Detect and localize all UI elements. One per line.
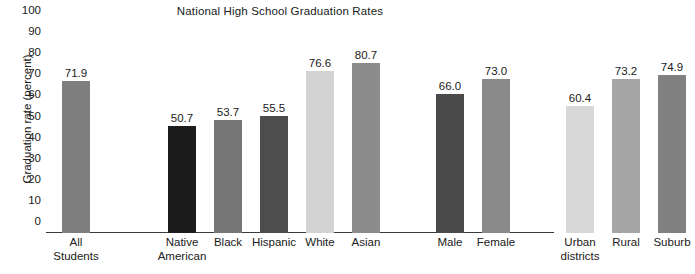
bar[interactable]: [658, 75, 686, 233]
y-axis-line: [46, 22, 48, 233]
bar[interactable]: [482, 79, 510, 233]
x-tick-label: Suburb: [633, 236, 695, 250]
y-tick-label: 100: [11, 4, 41, 16]
x-tick-label: Female: [457, 236, 535, 250]
bar-value-label: 50.7: [171, 112, 193, 124]
bar[interactable]: [62, 81, 90, 233]
y-tick-label: 0: [11, 215, 41, 227]
chart-title: National High School Graduation Rates: [0, 5, 560, 17]
bar-value-label: 80.7: [355, 49, 377, 61]
x-tick-label: AllStudents: [37, 236, 115, 263]
y-tick-label: 80: [11, 46, 41, 58]
bar-value-label: 73.2: [615, 65, 637, 77]
bar[interactable]: [566, 106, 594, 233]
x-axis-line: [46, 232, 554, 234]
y-tick-label: 20: [11, 173, 41, 185]
bar[interactable]: [260, 116, 288, 233]
bar[interactable]: [352, 63, 380, 233]
plot-area: 1009080706050403020100 71.950.753.755.57…: [46, 22, 554, 233]
bar[interactable]: [612, 79, 640, 233]
bar-value-label: 53.7: [217, 106, 239, 118]
x-tick-label: Asian: [327, 236, 405, 250]
y-tick-label: 60: [11, 88, 41, 100]
y-tick-label: 40: [11, 131, 41, 143]
bar-value-label: 76.6: [309, 57, 331, 69]
bar[interactable]: [436, 94, 464, 233]
y-tick-label: 90: [11, 25, 41, 37]
bar-value-label: 60.4: [569, 92, 591, 104]
bar-value-label: 71.9: [65, 67, 87, 79]
bar[interactable]: [306, 71, 334, 233]
y-tick-label: 70: [11, 67, 41, 79]
bar[interactable]: [168, 126, 196, 233]
y-tick-label: 50: [11, 110, 41, 122]
bar-value-label: 66.0: [439, 80, 461, 92]
y-tick-label: 10: [11, 194, 41, 206]
bar[interactable]: [214, 120, 242, 233]
bar-value-label: 74.9: [661, 61, 683, 73]
bar-value-label: 73.0: [485, 65, 507, 77]
y-tick-label: 30: [11, 152, 41, 164]
bar-value-label: 55.5: [263, 102, 285, 114]
